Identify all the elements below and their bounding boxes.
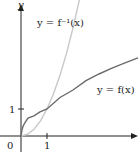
x-tick-label: 1 <box>44 140 50 151</box>
y-axis-label: y <box>17 0 24 10</box>
origin-label: 0 <box>7 140 13 151</box>
label-f-inverse: y = f⁻¹(x) <box>36 17 84 28</box>
y-tick-label: 1 <box>9 104 15 115</box>
label-f: y = f(x) <box>96 84 135 95</box>
x-axis-arrow-icon <box>131 133 138 139</box>
graph: y 0 1 1 y = f⁻¹(x) y = f(x) <box>0 0 140 152</box>
